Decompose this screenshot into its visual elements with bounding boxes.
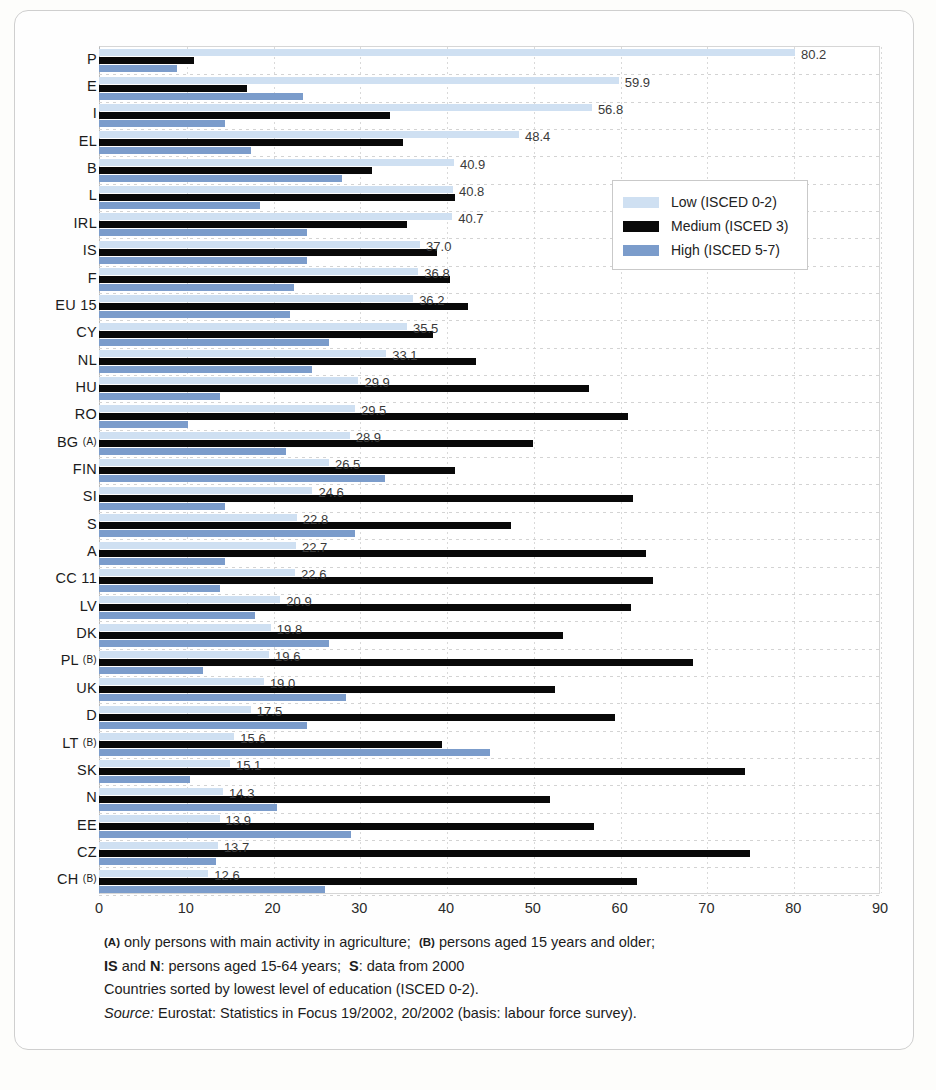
legend-item: Low (ISCED 0-2) (623, 190, 797, 214)
bar-high (99, 776, 190, 783)
bar-low (99, 569, 295, 576)
bar-med (99, 686, 555, 693)
value-label: 36.2 (419, 293, 444, 308)
bar-row: UK19.0 (0, 676, 936, 703)
category-label-nl: NL (0, 352, 97, 368)
bar-row: CZ13.7 (0, 840, 936, 867)
bar-row: EU 1536.2 (0, 293, 936, 320)
x-tick-80: 80 (785, 900, 801, 916)
bar-high (99, 366, 312, 373)
bar-med (99, 194, 455, 201)
bar-high (99, 229, 307, 236)
bar-low (99, 487, 312, 494)
footnote-a-text: only persons with main activity in agric… (124, 934, 411, 950)
bar-med (99, 550, 646, 557)
source-label: Source: (104, 1005, 154, 1021)
x-tick-40: 40 (438, 900, 454, 916)
bar-high (99, 640, 329, 647)
bar-med (99, 741, 442, 748)
category-label-l: L (0, 187, 97, 203)
category-label-hu: HU (0, 379, 97, 395)
value-label: 22.8 (303, 512, 328, 527)
bar-low (99, 459, 329, 466)
value-label: 17.5 (257, 704, 282, 719)
category-label-fin: FIN (0, 461, 97, 477)
footnote-line-4: Source: Eurostat: Statistics in Focus 19… (104, 1003, 864, 1025)
bar-high (99, 421, 188, 428)
bar-row: S22.8 (0, 512, 936, 539)
bar-row: E59.9 (0, 74, 936, 101)
bar-row: P80.2 (0, 47, 936, 74)
legend-label: Low (ISCED 0-2) (671, 194, 777, 210)
value-label: 48.4 (525, 129, 550, 144)
bar-high (99, 120, 225, 127)
bar-row: CH (B)12.6 (0, 868, 936, 895)
value-label: 40.7 (458, 211, 483, 226)
value-label: 29.5 (361, 403, 386, 418)
category-label-i: I (0, 105, 97, 121)
bar-low (99, 323, 407, 330)
bar-row: I56.8 (0, 102, 936, 129)
category-label-ch: CH (B) (0, 871, 97, 887)
category-label-irl: IRL (0, 215, 97, 231)
bar-row: LV20.9 (0, 594, 936, 621)
bar-med (99, 604, 631, 611)
footnote-is: IS (104, 958, 118, 974)
bar-row: SI24.6 (0, 485, 936, 512)
bar-low (99, 350, 386, 357)
bar-med (99, 249, 437, 256)
chart-legend: Low (ISCED 0-2)Medium (ISCED 3)High (ISC… (612, 180, 808, 270)
value-label: 36.8 (424, 266, 449, 281)
x-tick-10: 10 (178, 900, 194, 916)
bar-row: FIN26.5 (0, 457, 936, 484)
source-text: Eurostat: Statistics in Focus 19/2002, 2… (158, 1005, 637, 1021)
category-label-d: D (0, 707, 97, 723)
bar-high (99, 257, 307, 264)
bar-row: SK15.1 (0, 758, 936, 785)
bar-med (99, 385, 589, 392)
value-label: 37.0 (426, 239, 451, 254)
x-tick-60: 60 (612, 900, 628, 916)
value-label: 80.2 (801, 47, 826, 62)
footnote-a-marker: (A) (104, 936, 120, 948)
bar-low (99, 77, 619, 84)
bar-low (99, 815, 220, 822)
bar-med (99, 303, 468, 310)
bar-row: PL (B)19.6 (0, 649, 936, 676)
bar-row: D17.5 (0, 704, 936, 731)
bar-low (99, 870, 208, 877)
bar-low (99, 241, 420, 248)
category-label-n: N (0, 789, 97, 805)
bar-med (99, 57, 194, 64)
value-label: 22.6 (301, 567, 326, 582)
bar-low (99, 213, 452, 220)
category-label-dk: DK (0, 625, 97, 641)
bar-low (99, 760, 230, 767)
bar-rows: P80.2E59.9I56.8EL48.4B40.9L40.8IRL40.7IS… (0, 46, 936, 894)
value-label: 19.8 (277, 622, 302, 637)
footnote-b-marker: (B) (419, 936, 435, 948)
bar-row: DK19.8 (0, 621, 936, 648)
footnote-s: S (349, 958, 359, 974)
chart-footnotes: (A) only persons with main activity in a… (104, 932, 864, 1026)
footnote-line2-tail: : data from 2000 (359, 958, 465, 974)
category-label-s: S (0, 516, 97, 532)
value-label: 13.9 (226, 813, 251, 828)
footnote-line2-text: : persons aged 15-64 years; (160, 958, 341, 974)
category-label-lv: LV (0, 598, 97, 614)
value-label: 24.6 (318, 485, 343, 500)
value-label: 29.9 (364, 375, 389, 390)
bar-row: A22.7 (0, 539, 936, 566)
category-label-cz: CZ (0, 844, 97, 860)
category-label-p: P (0, 51, 97, 67)
bar-med (99, 467, 455, 474)
bar-high (99, 749, 490, 756)
legend-item: High (ISCED 5-7) (623, 238, 797, 262)
bar-low (99, 295, 413, 302)
bar-high (99, 284, 294, 291)
footnote-n: N (150, 958, 160, 974)
bar-low (99, 49, 795, 56)
bar-low (99, 377, 358, 384)
footnote-line-1: (A) only persons with main activity in a… (104, 932, 864, 954)
value-label: 40.8 (459, 184, 484, 199)
